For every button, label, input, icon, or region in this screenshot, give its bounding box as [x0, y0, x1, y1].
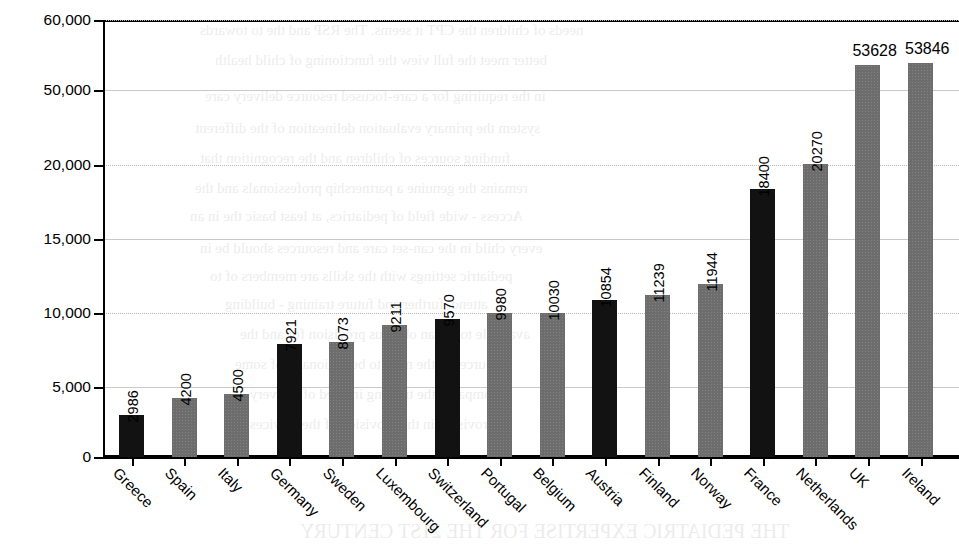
- x-axis-label: Austria: [583, 464, 628, 509]
- x-tick-mark: [552, 459, 554, 466]
- x-tick-mark: [289, 459, 291, 466]
- bar-value-label: 9980: [494, 289, 509, 321]
- bar-value-label: 11239: [652, 263, 667, 302]
- bar: [750, 189, 775, 457]
- bar-value-label: 7921: [283, 319, 298, 351]
- y-tick-mark: [94, 90, 105, 92]
- x-tick-mark: [500, 459, 502, 466]
- y-tick-label: 50,000: [44, 81, 91, 99]
- x-tick-mark: [395, 459, 397, 466]
- bar-value-label: 8073: [336, 317, 351, 349]
- y-tick-label: 60,000: [44, 11, 91, 29]
- x-tick-mark: [815, 459, 817, 466]
- bar: [540, 313, 565, 457]
- x-tick-mark: [710, 459, 712, 466]
- gridline: [103, 90, 959, 91]
- x-axis-label: Spain: [162, 464, 201, 503]
- bar: [592, 300, 617, 457]
- bar: [855, 65, 880, 457]
- y-tick-label: 5,000: [52, 378, 91, 396]
- bar: [224, 394, 249, 457]
- plot-area: 05,00010,00015,00020,00050,00060,000 298…: [103, 20, 959, 459]
- x-tick-mark: [605, 459, 607, 466]
- y-tick-label: 20,000: [44, 156, 91, 174]
- bar-value-label: 53846: [905, 41, 950, 57]
- x-axis-label: Portugal: [478, 464, 530, 516]
- y-tick-mark: [94, 239, 105, 241]
- x-tick-mark: [763, 459, 765, 466]
- y-tick-mark: [94, 457, 105, 459]
- x-tick-mark: [658, 459, 660, 466]
- bar: [435, 319, 460, 457]
- bar: [698, 284, 723, 457]
- bar: [908, 63, 933, 457]
- y-tick-mark: [94, 313, 105, 315]
- bar-value-label: 2986: [126, 390, 141, 422]
- x-axis-label: Greece: [109, 464, 156, 511]
- bar-value-label: 11944: [704, 252, 719, 291]
- y-tick-mark: [94, 20, 105, 22]
- x-axis-label: Norway: [688, 464, 736, 512]
- bar: [645, 295, 670, 457]
- x-tick-mark: [342, 459, 344, 466]
- x-axis-label: UK: [846, 464, 873, 491]
- bar-value-label: 4500: [231, 369, 246, 401]
- gridline: [103, 165, 959, 166]
- y-tick-label: 15,000: [44, 230, 91, 248]
- x-axis-label: Sweden: [320, 464, 370, 514]
- y-tick-mark: [94, 387, 105, 389]
- bar-value-label: 10030: [546, 280, 561, 320]
- x-tick-mark: [447, 459, 449, 466]
- x-tick-mark: [921, 459, 923, 466]
- x-axis-label: Ireland: [898, 464, 942, 508]
- x-axis-label: France: [741, 464, 786, 509]
- bar: [329, 342, 354, 457]
- bar-value-label: 20270: [809, 131, 824, 171]
- bar-value-label: 9570: [441, 295, 456, 327]
- bar: [172, 398, 197, 457]
- x-tick-mark: [868, 459, 870, 466]
- bar: [382, 325, 407, 457]
- y-tick-label: 0: [82, 448, 91, 466]
- bar: [277, 344, 302, 457]
- y-tick-mark: [94, 165, 105, 167]
- bar-value-label: 4200: [178, 373, 193, 405]
- x-axis-label: Finland: [635, 464, 682, 511]
- x-tick-mark: [237, 459, 239, 466]
- x-tick-mark: [184, 459, 186, 466]
- gridline: [103, 313, 959, 314]
- bar: [487, 313, 512, 457]
- bar-value-label: 9211: [389, 301, 404, 332]
- bar-chart: Number of Inhabitants/Pediatrician 05,00…: [0, 0, 959, 559]
- x-axis-label: Italy: [215, 464, 246, 495]
- x-tick-mark: [132, 459, 134, 466]
- bar-value-label: 18400: [757, 156, 772, 196]
- x-axis-label: Germany: [267, 464, 323, 520]
- bar-value-label: 10854: [599, 268, 614, 308]
- bar: [803, 164, 828, 457]
- y-tick-label: 10,000: [44, 304, 91, 322]
- bar-value-label: 53628: [852, 43, 897, 59]
- x-axis-label: Belgium: [530, 464, 580, 514]
- gridline: [103, 239, 959, 240]
- gridline: [103, 20, 959, 21]
